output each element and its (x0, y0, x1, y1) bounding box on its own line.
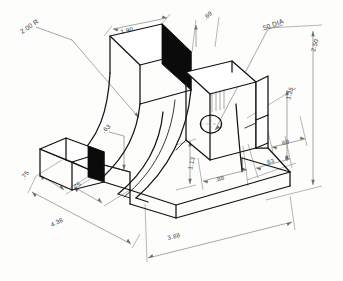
dimension-label-2-00R: 2.00 R (19, 17, 40, 34)
dimension-label-0-75-a: .75 (19, 169, 30, 181)
dimline-0-63-arc (109, 132, 126, 170)
dimension-label-4-38: 4.38 (49, 216, 64, 228)
upper-left-block (110, 24, 191, 104)
dimline-0-69-lower (266, 116, 307, 152)
dimension-label-50-dia: .50 DIA (260, 17, 285, 32)
dimension-label-1-25: 1.25 (284, 86, 294, 101)
dimension-label-1-13: 1.13 (186, 156, 196, 171)
dimension-label-0-88: .88 (214, 174, 225, 183)
part-geometry (40, 24, 290, 218)
dimline-0-75-a (36, 160, 92, 194)
dimension-label-3-88: 3.88 (167, 231, 182, 241)
dimension-label-2-50: 2.50 (309, 38, 319, 53)
dimension-label-0-69-top: .69 (202, 9, 214, 21)
drawing-sheet: 2.00 R 1.90 .69 .50 DIA 2.50 1.25 .63 1.… (0, 0, 343, 281)
dimline-0-69-top (192, 17, 219, 52)
dimension-label-0-69-lower: .69 (279, 138, 290, 147)
isometric-drawing-canvas: 2.00 R 1.90 .69 .50 DIA 2.50 1.25 .63 1.… (0, 0, 343, 281)
dimension-label-0-63-lower: .63 (264, 157, 275, 166)
right-upright (186, 61, 256, 160)
